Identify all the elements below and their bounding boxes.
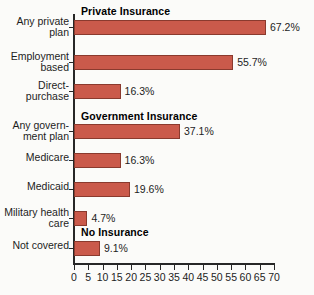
bar-value-label: 55.7% [237,56,267,69]
bar [74,84,121,99]
category-label: Any govern- ment plan [0,120,69,142]
value-tick [260,265,261,270]
section-header: Private Insurance [81,5,170,17]
value-tick [188,265,189,270]
bar [74,153,121,168]
bar-row: Employment based55.7% [0,55,314,71]
category-label: Military health care [0,207,69,229]
bar-value-label: 4.7% [91,212,115,225]
category-label: Direct- purchase [0,80,69,102]
bar-value-label: 19.6% [134,183,164,196]
value-tick [231,265,232,270]
bar [74,124,180,139]
bar [74,182,130,197]
bar-value-label: 16.3% [125,85,155,98]
category-label: Employment based [0,51,69,73]
bar [74,211,87,226]
section-header: No Insurance [81,226,149,238]
bar-row: Any govern- ment plan37.1% [0,124,314,140]
bar-value-label: 67.2% [270,21,300,34]
bar-row: Medicare16.3% [0,153,314,169]
bar-value-label: 9.1% [104,242,128,255]
category-label: Any private plan [0,16,69,38]
bar [74,55,233,70]
section-header: Government Insurance [81,110,197,122]
value-tick [174,265,175,270]
value-tick [131,265,132,270]
bar [74,241,100,256]
value-tick [117,265,118,270]
value-tick [245,265,246,270]
value-tick [145,265,146,270]
bar [74,20,266,35]
bar-row: Any private plan67.2% [0,20,314,36]
bar-chart: Private InsuranceGovernment InsuranceNo … [0,0,314,295]
bar-row: Not covered9.1% [0,241,314,257]
value-tick-label: 70 [264,271,284,283]
category-label: Medicare [0,152,69,163]
category-label: Not covered [0,240,69,251]
bar-row: Medicaid19.6% [0,182,314,198]
bar-value-label: 16.3% [125,154,155,167]
value-tick [217,265,218,270]
bar-row: Direct- purchase16.3% [0,84,314,100]
value-tick [88,265,89,270]
value-tick [160,265,161,270]
value-tick [103,265,104,270]
value-tick [203,265,204,270]
bar-value-label: 37.1% [184,125,214,138]
value-tick [74,265,75,270]
category-label: Medicaid [0,181,69,192]
value-tick [274,265,275,270]
bar-row: Military health care4.7% [0,211,314,227]
